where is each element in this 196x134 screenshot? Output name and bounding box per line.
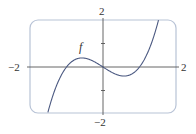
y-max-label: 2 [99, 5, 105, 17]
function-label: f [79, 40, 84, 54]
function-plot: −2 2 2 −2 f [0, 0, 196, 134]
x-min-label: −2 [8, 61, 20, 73]
x-max-label: 2 [181, 61, 187, 73]
y-min-label: −2 [94, 116, 106, 128]
